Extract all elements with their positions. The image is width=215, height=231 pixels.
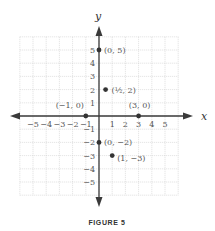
y-tick-label: −5 xyxy=(83,178,95,187)
y-axis-up-arrow-icon xyxy=(96,26,103,36)
y-axis-label: y xyxy=(94,10,102,23)
x-tick-labels: −5−4−3−2−112345 xyxy=(27,120,167,129)
figure-caption: FIGURE 5 xyxy=(88,219,125,226)
x-tick-label: 3 xyxy=(136,120,141,129)
y-tick-label: −3 xyxy=(83,152,95,161)
x-tick-label: −4 xyxy=(40,120,52,129)
y-tick-label: −4 xyxy=(83,165,95,174)
plotted-point xyxy=(97,140,102,145)
y-tick-label: 4 xyxy=(90,59,95,68)
plotted-point xyxy=(110,153,115,158)
point-label: (0, 5) xyxy=(104,46,126,55)
x-tick-label: −5 xyxy=(27,120,39,129)
point-label: (−1, 0) xyxy=(56,101,84,110)
y-axis-down-arrow-icon xyxy=(96,197,103,207)
plotted-point xyxy=(103,87,108,92)
point-label: (3, 0) xyxy=(129,101,151,110)
y-tick-label: 3 xyxy=(90,72,95,81)
y-tick-label: 1 xyxy=(90,99,95,108)
x-tick-label: 5 xyxy=(162,120,167,129)
x-tick-label: 4 xyxy=(149,120,154,129)
point-label: (1, −3) xyxy=(117,154,145,163)
x-axis-left-arrow-icon xyxy=(10,113,20,120)
plotted-point xyxy=(83,114,88,119)
coordinate-plane-figure: x y −5−4−3−2−112345 54321−1−2−3−4−5 (0, … xyxy=(0,0,215,231)
x-tick-label: 2 xyxy=(123,120,128,129)
x-tick-label: −2 xyxy=(67,120,79,129)
x-axis-right-arrow-icon xyxy=(183,113,193,120)
y-tick-label: 5 xyxy=(90,46,95,55)
y-tick-label: −1 xyxy=(83,125,95,134)
plotted-point xyxy=(136,114,141,119)
x-tick-label: 1 xyxy=(110,120,115,129)
x-axis-label: x xyxy=(201,110,208,123)
y-tick-label: −2 xyxy=(83,138,95,147)
point-label: (½, 2) xyxy=(112,86,136,95)
plotted-point xyxy=(97,48,102,53)
y-tick-label: 2 xyxy=(90,86,95,95)
x-tick-label: −3 xyxy=(54,120,66,129)
point-label: (0, −2) xyxy=(104,138,132,147)
